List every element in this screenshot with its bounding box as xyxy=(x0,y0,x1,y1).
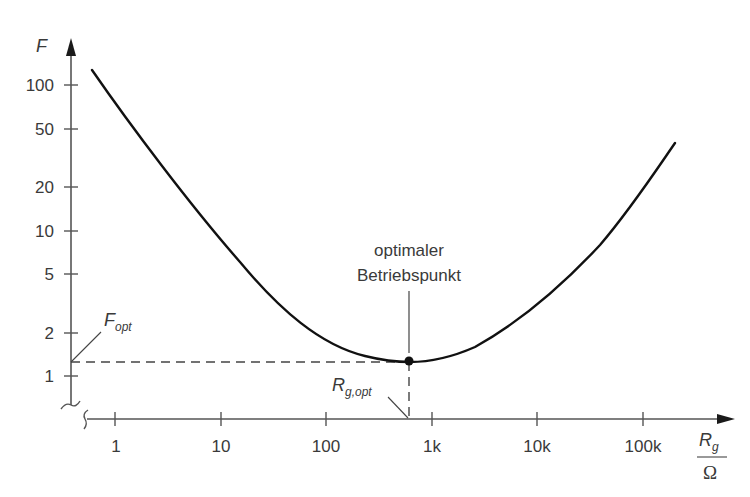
y-tick-label: 10 xyxy=(35,222,54,241)
y-ticks xyxy=(64,85,78,376)
y-tick-label: 2 xyxy=(45,324,54,343)
y-tick-label: 1 xyxy=(45,367,54,386)
f-opt-leader-line xyxy=(71,332,101,362)
x-tick-label: 100k xyxy=(625,437,662,456)
x-tick-label: 10 xyxy=(212,437,231,456)
x-axis-arrow-icon xyxy=(717,414,735,424)
y-axis: F 100 50 20 10 5 2 1 xyxy=(26,36,80,409)
x-axis-label-main: Rg xyxy=(699,430,719,454)
y-axis-label: F xyxy=(36,36,48,56)
x-tick-label: 1k xyxy=(423,437,441,456)
f-opt-label: Fopt xyxy=(104,310,132,334)
y-tick-label: 5 xyxy=(45,265,54,284)
optimum-label-line1: optimaler xyxy=(374,241,444,260)
y-axis-arrow-icon xyxy=(66,38,76,56)
rg-opt-label: Rg,opt xyxy=(332,375,372,399)
x-axis-label: Rg Ω xyxy=(697,430,727,483)
x-tick-labels: 1 10 100 1k 10k 100k xyxy=(111,437,662,456)
noise-figure-chart: F 100 50 20 10 5 2 1 xyxy=(0,0,750,497)
y-tick-labels: 100 50 20 10 5 2 1 xyxy=(26,76,54,386)
x-axis-unit: Ω xyxy=(703,462,717,483)
x-tick-label: 1 xyxy=(111,437,120,456)
x-tick-label: 100 xyxy=(312,437,340,456)
optimum-label-line2: Betriebspunkt xyxy=(357,266,461,285)
y-tick-label: 20 xyxy=(35,178,54,197)
optimum-point xyxy=(405,357,414,366)
x-axis: 1 10 100 1k 10k 100k Rg Ω xyxy=(84,410,735,483)
noise-figure-curve xyxy=(92,70,675,362)
y-tick-label: 50 xyxy=(35,120,54,139)
y-tick-label: 100 xyxy=(26,76,54,95)
x-tick-label: 10k xyxy=(523,437,551,456)
rg-opt-leader-line xyxy=(388,397,408,418)
